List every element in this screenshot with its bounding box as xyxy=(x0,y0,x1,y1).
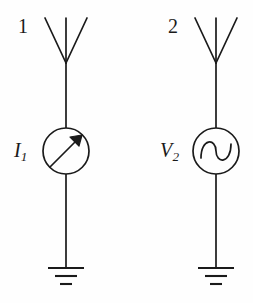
antenna-1-left-arm xyxy=(45,18,66,63)
antenna-2-right-arm xyxy=(216,18,237,63)
antenna-1-right-arm xyxy=(66,18,87,63)
current-source-label-main: I xyxy=(14,139,21,161)
voltage-source-label-subscript: 2 xyxy=(172,149,179,164)
antenna-2-left-arm xyxy=(195,18,216,63)
current-source-label: I1 xyxy=(14,140,27,163)
voltage-source-label: V2 xyxy=(160,140,179,163)
port-label-2: 2 xyxy=(168,16,178,36)
voltage-source-label-main: V xyxy=(160,139,172,161)
sine-wave-icon xyxy=(201,142,231,160)
earth-ground-2-icon xyxy=(198,268,234,284)
current-source-label-subscript: 1 xyxy=(21,149,28,164)
port-label-1: 1 xyxy=(18,16,28,36)
branch-1-group xyxy=(43,18,89,284)
circuit-schematic-canvas xyxy=(0,0,253,303)
branch-2-group xyxy=(193,18,239,284)
circuit-diagram-figure: 1 2 I1 V2 xyxy=(0,0,253,303)
v-dipole-antenna-2 xyxy=(195,18,237,63)
current-arrow-shaft xyxy=(50,141,76,167)
v-dipole-antenna-1 xyxy=(45,18,87,63)
current-source-arrow-icon xyxy=(50,135,82,167)
earth-ground-1-icon xyxy=(48,268,84,284)
